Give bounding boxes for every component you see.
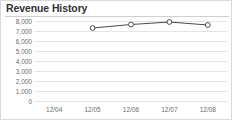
data-point-marker[interactable] <box>90 26 95 31</box>
series-layer <box>1 17 232 120</box>
data-point-marker[interactable] <box>129 22 134 27</box>
page-title: Revenue History <box>6 2 87 15</box>
revenue-history-chart-widget: Revenue History 01,0002,0003,0004,0005,0… <box>0 0 232 120</box>
data-point-marker[interactable] <box>205 23 210 28</box>
series-line <box>93 22 208 28</box>
data-point-marker[interactable] <box>167 20 172 25</box>
plot-area: 01,0002,0003,0004,0005,0006,0007,0008,00… <box>1 17 232 120</box>
revenue-series <box>90 20 210 31</box>
